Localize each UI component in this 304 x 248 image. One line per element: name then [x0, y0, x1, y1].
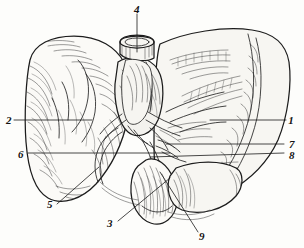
label-8: 8 [289, 149, 295, 161]
label-3: 3 [106, 217, 113, 229]
label-1: 1 [288, 114, 294, 126]
label-6: 6 [18, 148, 24, 160]
liver-engraving: 1 2 3 4 5 6 7 8 9 [0, 0, 304, 248]
label-9: 9 [199, 230, 205, 242]
label-4: 4 [133, 3, 140, 15]
label-5: 5 [47, 198, 53, 210]
label-2: 2 [5, 114, 12, 126]
anatomical-figure: 1 2 3 4 5 6 7 8 9 [0, 0, 304, 248]
